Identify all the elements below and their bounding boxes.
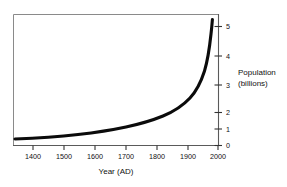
x-tick-label: 1800	[149, 152, 165, 161]
y-axis-title-line2: (billions)	[238, 79, 268, 88]
y-tick-label: 1	[226, 125, 230, 134]
x-tick-label: 1500	[56, 152, 72, 161]
y-axis-title-line1: Population	[238, 68, 276, 77]
population-growth-chart: 1400 1500 1600 1700 1800 1900 2000 0 1 2…	[0, 0, 287, 187]
x-tick-label: 1600	[87, 152, 103, 161]
y-tick-label: 0	[226, 141, 230, 150]
y-tick-label: 3	[226, 81, 230, 90]
chart-page: 1400 1500 1600 1700 1800 1900 2000 0 1 2…	[0, 0, 287, 187]
y-tick-label: 4	[226, 52, 230, 61]
x-tick-label: 2000	[210, 152, 226, 161]
x-tick-labels: 1400 1500 1600 1700 1800 1900 2000	[25, 152, 226, 161]
x-tick-label: 1400	[25, 152, 41, 161]
y-tick-label: 2	[226, 108, 230, 117]
x-tick-label: 1700	[118, 152, 134, 161]
x-tick-label: 1900	[180, 152, 196, 161]
chart-background	[0, 0, 287, 187]
x-axis-title: Year (AD)	[99, 167, 134, 176]
y-tick-label: 5	[226, 22, 230, 31]
